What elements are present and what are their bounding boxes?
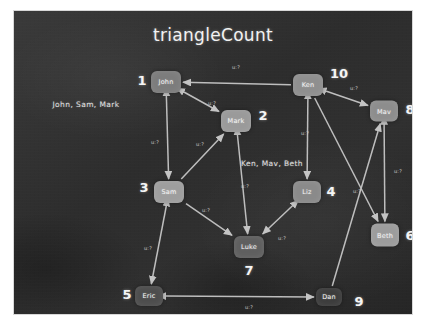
graph-node-mark[interactable]: Mark [221, 110, 251, 132]
graph-node-number-eric: 5 [122, 287, 131, 302]
graph-node-label: Beth [377, 231, 393, 239]
graph-edge-sam-eric[interactable] [151, 205, 166, 284]
graph-edge-john-sam[interactable] [166, 95, 168, 179]
graph-node-mav[interactable]: Mav [370, 101, 398, 122]
edge-label: u:? [208, 100, 216, 106]
graph-node-label: Sam [161, 188, 176, 196]
annotation-text: Ken, Mav, Beth [241, 159, 303, 168]
annotation-text: John, Sam, Mark [53, 100, 120, 109]
graph-node-number-sam: 3 [139, 180, 148, 195]
graph-node-eric[interactable]: Eric [135, 286, 163, 306]
graph-node-number-ken: 10 [330, 66, 348, 81]
graph-node-label: Ken [302, 81, 315, 89]
edge-label: u:? [301, 130, 309, 136]
graph-node-liz[interactable]: Liz [293, 181, 321, 203]
graph-node-number-liz: 4 [326, 184, 335, 199]
chalkboard: triangleCount John1Mark2Sam3Liz4Eric5Bet… [14, 11, 412, 314]
graph-node-ken[interactable]: Ken [293, 74, 323, 96]
graph-node-sam[interactable]: Sam [154, 181, 184, 203]
edge-label: u:? [245, 304, 253, 310]
graph-node-number-mav: 8 [405, 102, 412, 117]
graph-node-label: John [159, 78, 174, 86]
graph-node-john[interactable]: John [151, 71, 181, 93]
graph-node-label: Liz [302, 188, 311, 196]
graph-edge-mav-beth[interactable] [384, 124, 385, 222]
edge-label: u:? [350, 85, 358, 91]
graph-node-number-dan: 9 [354, 294, 363, 309]
graph-edge-ken-mav[interactable] [325, 91, 368, 106]
graph-node-luke[interactable]: Luke [234, 236, 264, 258]
graph-node-dan[interactable]: Dan [316, 288, 342, 306]
graph-node-number-luke: 7 [244, 263, 253, 278]
graph-node-beth[interactable]: Beth [371, 224, 399, 247]
graph-edge-ken-beth[interactable] [315, 98, 378, 222]
graph-node-label: Eric [143, 292, 156, 300]
graph-node-number-john: 1 [137, 73, 146, 88]
edge-label: u:? [278, 235, 286, 241]
graph-node-label: Dan [322, 293, 336, 301]
graph-node-label: Luke [241, 243, 257, 251]
graph-edge-liz-luke[interactable] [263, 205, 294, 234]
edge-label: u:? [394, 168, 402, 174]
edge-label: u:? [202, 207, 210, 213]
edge-label: u:? [232, 64, 240, 70]
edge-label: u:? [144, 245, 152, 251]
graph-edges [14, 11, 412, 314]
edge-label: u:? [353, 188, 361, 194]
graph-node-number-beth: 6 [405, 228, 412, 243]
graph-edge-ken-liz[interactable] [307, 98, 308, 179]
edge-label: u:? [151, 139, 159, 145]
graph-edge-eric-dan[interactable] [165, 296, 314, 297]
graph-node-label: Mav [377, 107, 391, 115]
edge-label: u:? [241, 183, 249, 189]
graph-node-number-mark: 2 [258, 108, 267, 123]
edge-label: u:? [196, 141, 204, 147]
graph-node-label: Mark [228, 117, 245, 125]
graph-edge-ken-john[interactable] [183, 82, 291, 84]
